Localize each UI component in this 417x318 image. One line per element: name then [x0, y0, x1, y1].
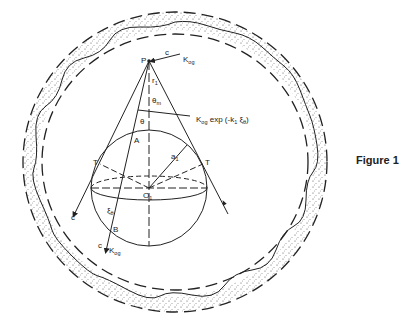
label-P: P — [141, 56, 146, 65]
tangent-right — [149, 61, 228, 214]
label-a1: a1 — [171, 152, 179, 162]
label-xi-theta: ξθ — [107, 206, 114, 216]
ray-through-sphere — [106, 61, 149, 251]
label-B: B — [113, 225, 118, 234]
sphere — [91, 61, 207, 246]
label-theta: θ — [140, 117, 145, 126]
label-T-right: T — [205, 158, 210, 167]
label-c-top: c — [165, 48, 169, 57]
label-O1: O1 — [143, 191, 152, 201]
label-c-bottom: c — [98, 241, 102, 250]
inner-dashed-boundary — [42, 34, 308, 290]
tangent-cone — [74, 54, 228, 251]
label-A: A — [134, 136, 140, 145]
label-r1: r1 — [152, 76, 158, 86]
label-T-left: T — [93, 158, 98, 167]
labels: P c Kog r1 θm θ Kog exp (-k1 ξθ) A a1 T … — [71, 48, 249, 256]
ray-upward-arrow — [124, 110, 134, 172]
decay-leader-line — [138, 110, 190, 116]
stippled-band — [23, 12, 327, 312]
label-decay-expression: Kog exp (-k1 ξθ) — [196, 115, 249, 125]
label-theta-m: θm — [152, 96, 161, 106]
label-K-bottom: Kog — [109, 246, 120, 256]
label-K-top: Kog — [183, 55, 194, 65]
radius-a1 — [149, 145, 187, 188]
figure-caption: Figure 1 — [356, 154, 399, 166]
radius-to-T-right — [149, 164, 203, 188]
label-c-left: c — [71, 213, 75, 222]
diagram-canvas: P c Kog r1 θm θ Kog exp (-k1 ξθ) A a1 T … — [0, 0, 417, 318]
outer-shell — [23, 12, 327, 312]
point-P — [147, 59, 151, 63]
